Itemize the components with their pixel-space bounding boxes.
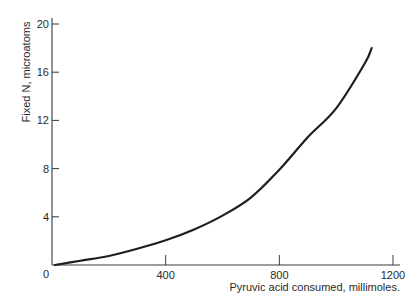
y-tick-label: 20 bbox=[37, 18, 49, 30]
x-axis-label: Pyruvic acid consumed, millimoles. bbox=[229, 281, 400, 293]
y-tick-label: 12 bbox=[37, 114, 49, 126]
x-tick-label: 1200 bbox=[381, 269, 405, 281]
x-tick-label: 800 bbox=[270, 269, 288, 281]
y-axis-label: Fixed N, microatoms bbox=[20, 21, 32, 122]
y-tick-label: 4 bbox=[43, 211, 49, 223]
y-tick-label: 8 bbox=[43, 163, 49, 175]
origin-label: 0 bbox=[43, 268, 49, 280]
x-axis-ticks: 4008001200 bbox=[156, 255, 405, 281]
y-tick-label: 16 bbox=[37, 66, 49, 78]
chart-canvas: Fixed N, microatoms 48121620 4008001200 … bbox=[0, 0, 418, 304]
data-curve bbox=[55, 48, 372, 265]
y-axis-ticks: 48121620 bbox=[37, 18, 59, 223]
chart: Fixed N, microatoms 48121620 4008001200 … bbox=[0, 0, 418, 304]
x-tick-label: 400 bbox=[156, 269, 174, 281]
